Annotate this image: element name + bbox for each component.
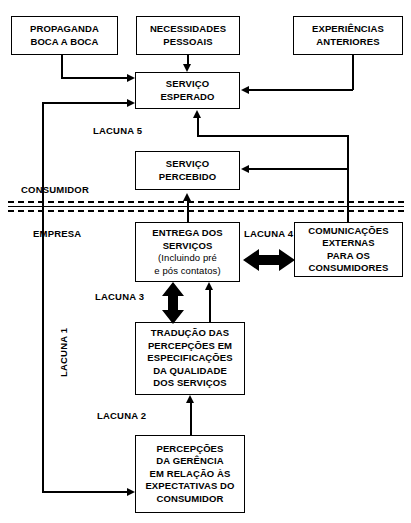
label-lacuna-3: LACUNA 3	[95, 291, 144, 302]
box-comunicacoes-label: COMUNICAÇÕES EXTERNAS PARA OS CONSUMIDOR…	[306, 225, 390, 275]
connector-lacuna1-top-horizontal	[42, 102, 129, 104]
box-traducao-percepcoes: TRADUÇÃO DAS PERCEPÇÕES EM ESPECIFICAÇÕE…	[135, 322, 245, 395]
connector-comunicacoes-to-esperado-vertical	[197, 118, 199, 136]
box-comunicacoes-externas: COMUNICAÇÕES EXTERNAS PARA OS CONSUMIDOR…	[294, 222, 403, 277]
connector-propaganda-horizontal	[61, 77, 129, 79]
label-lacuna-1: LACUNA 1	[58, 328, 69, 377]
box-entrega-dos-servicos: ENTREGA DOS SERVIÇOS (Incluindo pré e pó…	[135, 222, 240, 282]
box-propaganda-boca-a-boca: PROPAGANDA BOCA A BOCA	[11, 16, 118, 55]
connector-traducao-to-entrega	[209, 290, 211, 322]
box-experiencias-anteriores: EXPERIÊNCIAS ANTERIORES	[293, 16, 403, 55]
connector-percepcoes-to-traducao	[190, 403, 192, 435]
arrowhead-necessidades-to-esperado	[183, 64, 191, 72]
arrowhead-percepcoes-to-traducao	[186, 395, 194, 403]
connector-experiencias-vertical	[352, 55, 354, 90]
box-entrega-sub-label: (Incluindo pré e pós contatos)	[152, 252, 222, 277]
bold-double-arrow-lacuna-3	[160, 282, 186, 324]
box-servico-percebido: SERVIÇO PERCEBIDO	[135, 151, 240, 190]
connector-propaganda-vertical	[61, 55, 63, 78]
bold-double-arrow-lacuna-4	[243, 247, 295, 273]
box-servico-percebido-label: SERVIÇO PERCEBIDO	[157, 158, 218, 183]
label-lacuna-4: LACUNA 4	[244, 228, 293, 239]
separator-solid-middle	[8, 206, 404, 208]
connector-experiencias-horizontal	[248, 89, 353, 91]
box-percepcoes-gerencia-label: PERCEPÇÕES DA GERÊNCIA EM RELAÇÃO ÀS EXP…	[143, 443, 236, 506]
arrowhead-lacuna1-to-esperado	[127, 99, 135, 107]
arrowhead-comunicacoes-to-percebido	[241, 165, 249, 173]
connector-lacuna1-bottom-horizontal	[42, 491, 129, 493]
label-lacuna-5: LACUNA 5	[93, 125, 142, 136]
arrowhead-experiencias-to-esperado	[241, 86, 249, 94]
label-empresa: EMPRESA	[33, 228, 81, 239]
connector-lacuna1-vertical	[42, 102, 44, 492]
arrowhead-propaganda-to-esperado	[127, 74, 135, 82]
separator-dashed-top	[8, 201, 404, 203]
label-lacuna-2: LACUNA 2	[97, 410, 146, 421]
connector-comunicacoes-to-percebido-horizontal	[248, 168, 349, 170]
box-necessidades-label: NECESSIDADES PESSOAIS	[148, 23, 228, 48]
box-propaganda-label: PROPAGANDA BOCA A BOCA	[28, 23, 101, 48]
box-traducao-label: TRADUÇÃO DAS PERCEPÇÕES EM ESPECIFICAÇÕE…	[145, 327, 234, 390]
box-necessidades-pessoais: NECESSIDADES PESSOAIS	[136, 16, 240, 55]
box-entrega-main-label: ENTREGA DOS SERVIÇOS	[150, 227, 224, 252]
label-consumidor: CONSUMIDOR	[21, 184, 89, 195]
connector-comunicacoes-to-esperado-horizontal	[197, 135, 349, 137]
box-percepcoes-gerencia: PERCEPÇÕES DA GERÊNCIA EM RELAÇÃO ÀS EXP…	[135, 435, 245, 513]
service-quality-gaps-diagram: PROPAGANDA BOCA A BOCA NECESSIDADES PESS…	[0, 0, 411, 523]
box-servico-esperado: SERVIÇO ESPERADO	[135, 72, 240, 109]
arrowhead-comunicacoes-to-esperado	[193, 110, 201, 118]
arrowhead-lacuna1-to-percepcoes	[127, 488, 135, 496]
arrowhead-entrega-to-percebido	[183, 193, 191, 201]
arrowhead-traducao-to-entrega	[205, 282, 213, 290]
connector-comunicacoes-vertical-right	[347, 135, 349, 222]
box-experiencias-label: EXPERIÊNCIAS ANTERIORES	[310, 23, 386, 48]
box-servico-esperado-label: SERVIÇO ESPERADO	[158, 78, 216, 103]
separator-dashed-bottom	[8, 210, 404, 212]
